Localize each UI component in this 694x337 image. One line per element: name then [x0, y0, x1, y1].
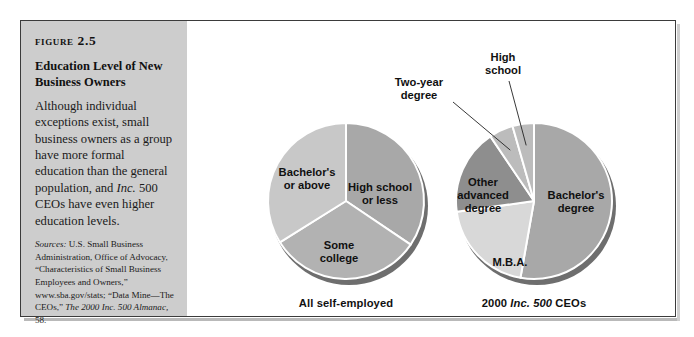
figure-frame: Figure 2.5 Education Level of New Busine…: [20, 20, 676, 317]
figure-screenshot: Figure 2.5 Education Level of New Busine…: [0, 0, 694, 337]
pie-charts-svg: [187, 21, 677, 318]
pie-caption-all-self-employed: All self-employed: [236, 297, 456, 309]
figure-title: Education Level of New Business Owners: [35, 58, 174, 90]
sources-almanac: The 2000 Inc. 500 Almanac,: [65, 302, 168, 312]
sources-heading: Sources:: [35, 239, 66, 249]
pie-caption-pre: 2000: [482, 297, 511, 309]
pie-caption-inc-500-ceos: 2000 Inc. 500 CEOs: [424, 297, 644, 309]
chart-area: High school or less Some college Bachelo…: [187, 21, 675, 316]
caption-panel: Figure 2.5 Education Level of New Busine…: [21, 21, 187, 316]
pie-caption-post: CEOs: [552, 297, 586, 309]
slice-label-two-year-degree: Two-year degree: [375, 76, 463, 102]
figure-sources: Sources: U.S. Small Business Administrat…: [35, 238, 174, 327]
figure-body-text: Although individual exceptions exist, sm…: [35, 98, 174, 229]
pie-caption-italic: Inc. 500: [510, 297, 552, 309]
figure-body-italic: Inc.: [117, 181, 136, 195]
slice-label-high-school: High school: [459, 51, 547, 77]
figure-number: Figure 2.5: [35, 33, 174, 49]
pie-slice: [457, 201, 534, 278]
frame-drop-shadow-right: [677, 24, 680, 321]
sources-page: 58.: [35, 315, 46, 325]
